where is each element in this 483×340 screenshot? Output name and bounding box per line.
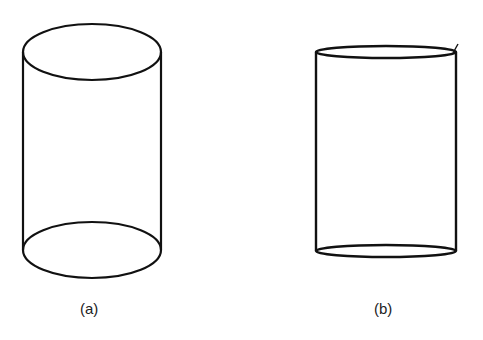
panel-b-label: (b) (374, 300, 392, 317)
panel-a-label: (a) (80, 300, 98, 317)
cylinder-b (316, 44, 458, 257)
figure-canvas (0, 0, 483, 340)
cylinder-a (23, 24, 161, 278)
cylinder-b-top-ellipse (316, 46, 456, 58)
cylinder-a-bottom-ellipse (23, 222, 161, 278)
cylinder-a-top-ellipse (23, 24, 161, 80)
cylinder-b-bottom-ellipse (316, 245, 456, 257)
